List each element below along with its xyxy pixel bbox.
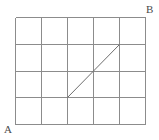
vertex-label-a: A bbox=[4, 124, 12, 135]
grid-horizontal-lines bbox=[16, 18, 146, 125]
grid-canvas bbox=[0, 0, 159, 140]
vertex-label-b: B bbox=[146, 4, 153, 15]
grid-diagram-figure: A B bbox=[0, 0, 159, 140]
